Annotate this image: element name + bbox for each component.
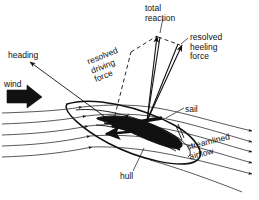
resolved-driving-force-vector [113,36,157,123]
label-total-reaction: total reaction [145,4,175,23]
heeling-force-leader [181,38,188,44]
label-wind: wind [4,80,21,90]
label-heading: heading [8,51,38,61]
label-resolved-heeling-force: resolved heeling force [190,33,222,62]
diagram-artwork [0,0,259,200]
upwind-streamlines [2,107,92,157]
hull-leader [133,148,144,171]
label-hull: hull [120,172,133,182]
parallelogram-closing-line [158,37,180,45]
diagram-canvas: total reaction resolved heeling force re… [0,0,259,200]
label-sail: sail [185,105,198,115]
